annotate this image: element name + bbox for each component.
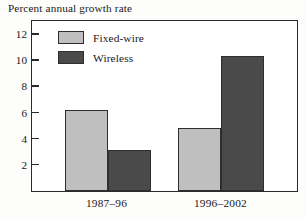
legend-item-fixed-wire: Fixed-wire bbox=[58, 29, 144, 46]
legend-swatch-fixed-wire bbox=[58, 31, 84, 44]
plot-area: 24681012 Fixed-wire Wireless bbox=[31, 20, 298, 192]
legend-swatch-wireless bbox=[58, 51, 84, 64]
chart-title: Percent annual growth rate bbox=[8, 2, 132, 14]
chart-legend: Fixed-wire Wireless bbox=[58, 29, 144, 69]
y-axis-tick-label: 12 bbox=[16, 26, 27, 42]
legend-label-wireless: Wireless bbox=[93, 52, 133, 64]
bar-wireless-1 bbox=[108, 150, 151, 191]
bar-fixed-wire-2 bbox=[178, 128, 221, 191]
x-axis-label-1: 1987–96 bbox=[86, 197, 127, 209]
y-axis-tick-label: 6 bbox=[21, 105, 27, 121]
bar-fixed-wire-1 bbox=[65, 110, 108, 191]
y-axis-tick-label: 10 bbox=[16, 52, 27, 68]
x-axis-label-2: 1996–2002 bbox=[194, 197, 247, 209]
legend-label-fixed-wire: Fixed-wire bbox=[93, 32, 144, 44]
y-axis-tick-label: 4 bbox=[21, 131, 27, 147]
y-axis-tick-label: 2 bbox=[21, 157, 27, 173]
legend-item-wireless: Wireless bbox=[58, 49, 144, 66]
bar-wireless-2 bbox=[221, 56, 264, 191]
bar-chart-figure: Percent annual growth rate 24681012 Fixe… bbox=[0, 0, 306, 218]
y-axis-tick-label: 8 bbox=[21, 78, 27, 94]
